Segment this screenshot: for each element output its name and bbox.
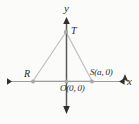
- triangle-rst: [33, 32, 92, 81]
- triangle-side-ts: [66, 32, 92, 81]
- point-marker-t: [64, 30, 68, 34]
- y-axis-arrow-up: [63, 17, 70, 24]
- x-axis-label: x: [127, 76, 132, 87]
- coordinate-diagram: y x T R S(a, 0) O(0, 0): [0, 0, 139, 124]
- origin-label: O(0, 0): [60, 84, 85, 93]
- diagram-canvas: [0, 0, 139, 124]
- y-axis-label: y: [64, 3, 69, 14]
- triangle-side-rt: [33, 32, 66, 81]
- x-axis-arrow-left: [7, 78, 12, 85]
- point-label-r: R: [24, 69, 30, 79]
- point-marker-r: [31, 80, 35, 84]
- x-axis-arrow-right: [119, 78, 125, 85]
- point-label-s: S(a, 0): [90, 68, 113, 77]
- y-axis-arrow-down: [63, 106, 70, 114]
- point-marker-s: [90, 80, 94, 84]
- point-label-t: T: [71, 26, 77, 36]
